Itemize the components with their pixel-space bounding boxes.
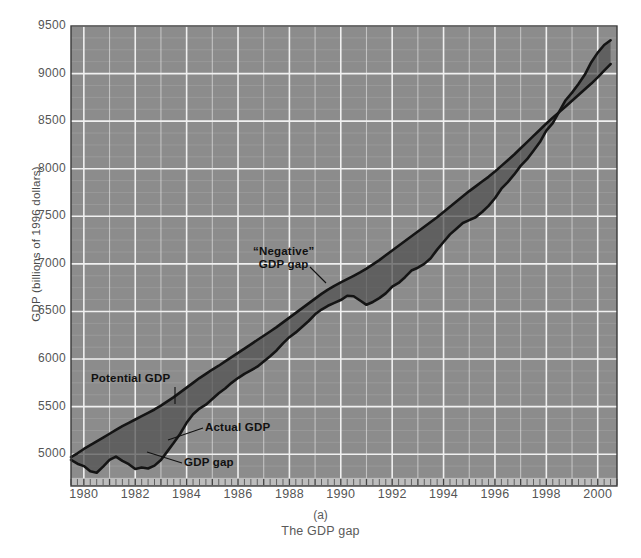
caption-text: The GDP gap	[0, 524, 641, 538]
annotation-potential-gdp: Potential GDP	[91, 372, 170, 385]
x-axis-tick-label: 1996	[468, 487, 522, 501]
x-axis-tick-label: 1982	[108, 487, 162, 501]
annotation-negative-gdp-gap: “Negative” GDP gap	[253, 245, 314, 271]
x-axis-tick-label: 1988	[262, 487, 316, 501]
x-axis-tick-label: 1994	[417, 487, 471, 501]
chart-canvas	[0, 0, 641, 558]
annotation-actual-gdp: Actual GDP	[205, 421, 270, 434]
x-axis-tick-label: 2000	[571, 487, 625, 501]
x-axis-tick-label: 1998	[519, 487, 573, 501]
annotation-gdp-gap: GDP gap	[184, 456, 234, 469]
figure-gdp-gap: GDP (billions of 1996 dollars) 500055006…	[0, 0, 641, 558]
x-axis-tick-label: 1980	[57, 487, 111, 501]
x-axis-tick-label: 1984	[160, 487, 214, 501]
x-axis-tick-label: 1992	[365, 487, 419, 501]
x-axis-tick-label: 1986	[211, 487, 265, 501]
annotation-negative-line2: GDP gap	[259, 258, 309, 270]
x-axis-tick-band	[71, 478, 617, 486]
x-axis-tick-label: 1990	[314, 487, 368, 501]
caption-letter: (a)	[0, 508, 641, 522]
annotation-negative-line1: “Negative”	[253, 245, 314, 257]
